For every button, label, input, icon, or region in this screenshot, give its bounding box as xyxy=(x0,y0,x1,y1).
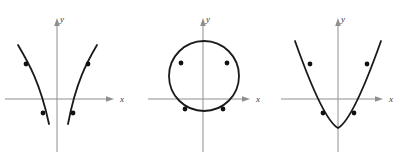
parabola-graph: y x xyxy=(273,0,406,166)
x-axis-label: x xyxy=(388,94,393,104)
x-axis-label: x xyxy=(255,94,260,104)
x-axis-label: x xyxy=(119,94,124,104)
hyperbola-graph: y x xyxy=(0,0,140,166)
circle-graph: y x xyxy=(140,0,273,166)
point-marker xyxy=(225,61,230,66)
point-marker xyxy=(352,111,357,116)
figure-panel-circle: y x xyxy=(140,0,273,166)
y-axis-arrowhead xyxy=(54,18,60,26)
point-marker xyxy=(86,62,91,67)
point-marker xyxy=(308,62,313,67)
x-axis-arrowhead xyxy=(106,96,114,102)
point-marker xyxy=(183,107,188,112)
y-axis-label: y xyxy=(340,14,345,24)
point-marker xyxy=(321,111,326,116)
x-axis-arrowhead xyxy=(375,96,383,102)
y-axis-label: y xyxy=(205,14,210,24)
point-marker xyxy=(179,61,184,66)
point-marker xyxy=(71,111,76,116)
y-axis-arrowhead xyxy=(335,18,341,26)
point-marker xyxy=(221,107,226,112)
figure-panel-parabola: y x xyxy=(273,0,406,166)
y-axis-label: y xyxy=(59,14,64,24)
y-axis-arrowhead xyxy=(200,18,206,26)
point-marker xyxy=(365,62,370,67)
point-marker xyxy=(41,111,46,116)
point-marker xyxy=(24,62,29,67)
figure-strip: y x y x xyxy=(0,0,406,166)
circle-curve xyxy=(169,41,239,111)
x-axis-arrowhead xyxy=(242,96,250,102)
figure-panel-hyperbola: y x xyxy=(0,0,140,166)
